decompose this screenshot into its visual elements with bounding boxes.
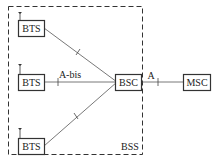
- antenna-icon: [18, 12, 22, 20]
- msc-node: MSC: [184, 75, 211, 91]
- antenna-icon: [18, 64, 22, 74]
- bts-label: BTS: [22, 23, 40, 34]
- bss-architecture-diagram: BTS BTS BTS BSC MSC A-bis A BSS: [0, 0, 215, 162]
- bts-node-1: BTS: [19, 21, 45, 37]
- bts-label: BTS: [22, 77, 40, 88]
- bts-node-2: BTS: [19, 75, 45, 91]
- a-interface-label: A: [147, 70, 155, 81]
- antenna-icon: [18, 128, 22, 138]
- bts-label: BTS: [22, 141, 40, 152]
- bts-node-3: BTS: [19, 139, 45, 155]
- msc-label: MSC: [186, 77, 207, 88]
- abis-interface-label: A-bis: [59, 69, 81, 80]
- link-bts3-bsc: [44, 82, 117, 146]
- bsc-label: BSC: [119, 77, 138, 88]
- bss-label: BSS: [121, 141, 139, 152]
- bsc-node: BSC: [116, 75, 142, 91]
